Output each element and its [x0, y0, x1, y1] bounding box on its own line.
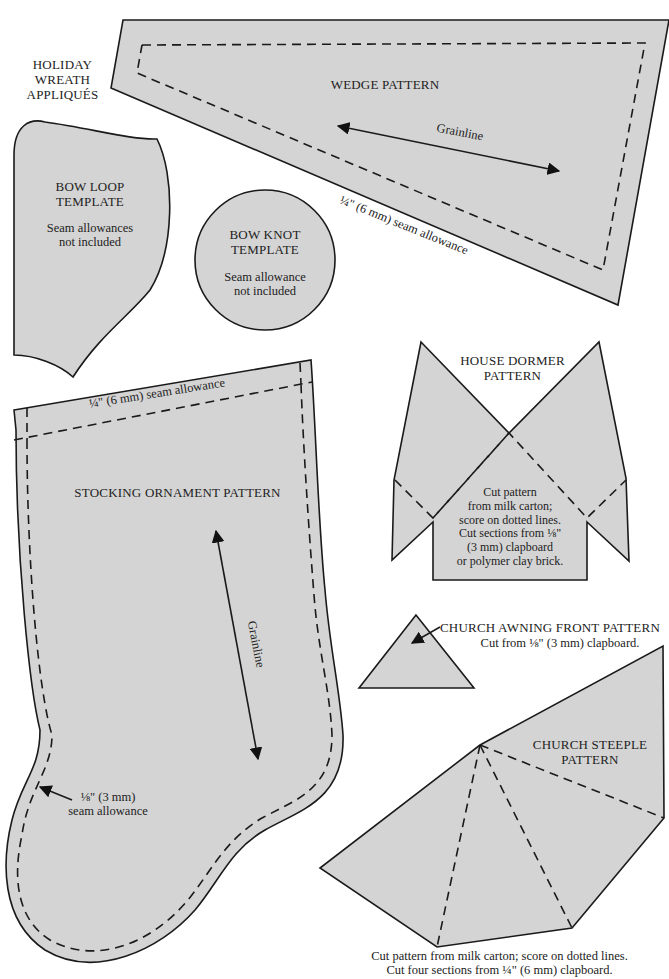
stocking-title: STOCKING ORNAMENT PATTERN	[60, 486, 295, 501]
stocking-side-seam-label: ⅛" (3 mm) seam allowance	[58, 790, 158, 819]
bow-loop-title: BOW LOOP TEMPLATE	[20, 180, 160, 210]
church-steeple-pattern-shape	[320, 646, 664, 947]
bow-knot-note: Seam allowance not included	[205, 270, 325, 299]
bow-loop-note: Seam allowances not included	[20, 221, 160, 250]
church-steeple-note: Cut pattern from milk carton; score on d…	[330, 949, 669, 978]
bow-knot-title: BOW KNOT TEMPLATE	[205, 228, 325, 258]
wedge-title: WEDGE PATTERN	[300, 78, 470, 93]
pattern-sheet: HOLIDAY WREATH APPLIQUÉS WEDGE PATTERN G…	[0, 0, 669, 979]
house-dormer-title: HOUSE DORMER PATTERN	[430, 354, 595, 384]
bow-knot-template-shape	[195, 190, 335, 330]
stocking-ornament-pattern-shape	[6, 360, 343, 962]
church-steeple-title: CHURCH STEEPLE PATTERN	[525, 738, 655, 768]
church-awning-title: CHURCH AWNING FRONT PATTERN	[440, 621, 665, 636]
church-awning-note: Cut from ⅛" (3 mm) clapboard.	[455, 636, 665, 650]
house-dormer-note: Cut pattern from milk carton; score on d…	[432, 486, 588, 569]
section-title: HOLIDAY WREATH APPLIQUÉS	[20, 58, 105, 103]
